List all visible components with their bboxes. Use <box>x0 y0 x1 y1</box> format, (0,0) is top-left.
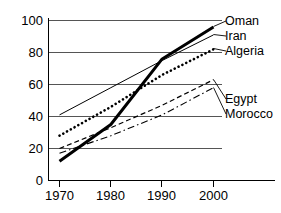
line-chart: 100 80 60 40 20 0 1970 1980 1990 2000 Om… <box>0 0 281 213</box>
series-label-algeria: Algeria <box>225 44 264 58</box>
series-label-egypt: Egypt <box>225 92 257 106</box>
series-line-iran <box>60 35 214 115</box>
series-layer <box>60 27 214 161</box>
gridlines <box>48 21 222 149</box>
chart-canvas: 100 80 60 40 20 0 1970 1980 1990 2000 Om… <box>0 0 281 213</box>
y-axis-tick-labels: 100 80 60 40 20 0 <box>21 13 43 188</box>
y-tick-label-80: 80 <box>29 45 43 60</box>
y-tick-label-20: 20 <box>29 141 43 156</box>
series-label-morocco: Morocco <box>225 107 273 121</box>
x-tick-label-1990: 1990 <box>147 188 176 203</box>
x-tick-label-1970: 1970 <box>45 188 74 203</box>
series-line-oman <box>60 27 214 161</box>
x-axis-tick-labels: 1970 1980 1990 2000 <box>45 188 228 203</box>
series-label-iran: Iran <box>225 29 247 43</box>
series-labels: Oman Iran Algeria Egypt Morocco <box>225 14 273 121</box>
leader-line-egypt <box>214 80 227 100</box>
x-tick-label-2000: 2000 <box>199 188 228 203</box>
x-tick-label-1980: 1980 <box>96 188 125 203</box>
y-tick-label-100: 100 <box>21 13 43 28</box>
y-tick-label-40: 40 <box>29 109 43 124</box>
series-label-oman: Oman <box>225 14 259 28</box>
y-tick-label-60: 60 <box>29 77 43 92</box>
y-tick-label-0: 0 <box>36 173 43 188</box>
